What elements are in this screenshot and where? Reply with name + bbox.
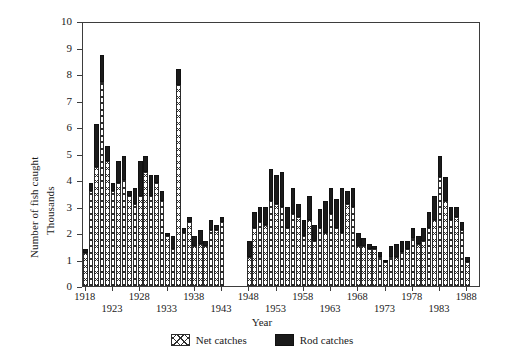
net-segment xyxy=(416,244,421,286)
bars-container xyxy=(83,23,479,286)
solid-black-swatch-icon xyxy=(275,334,294,346)
y-tick-5 xyxy=(77,155,82,156)
x-tick-1943 xyxy=(221,287,222,291)
rod-segment xyxy=(378,252,383,257)
bar-1940 xyxy=(203,241,208,286)
bar-1986 xyxy=(454,207,459,287)
x-tick-label-1953: 1953 xyxy=(265,303,286,314)
bar-1976 xyxy=(400,241,405,286)
net-segment xyxy=(127,196,132,286)
rod-segment xyxy=(263,207,268,226)
net-segment xyxy=(345,204,350,286)
net-segment xyxy=(361,246,366,286)
bar-1932 xyxy=(160,191,165,286)
bar-1942 xyxy=(214,225,219,286)
net-segment xyxy=(411,238,416,286)
x-tick-label-1988: 1988 xyxy=(456,291,477,302)
y-tick-label-3: 3 xyxy=(50,202,72,213)
rod-segment xyxy=(405,241,410,249)
net-segment xyxy=(187,222,192,286)
bar-1953 xyxy=(274,175,279,286)
y-tick-label-6: 6 xyxy=(50,122,72,133)
net-segment xyxy=(312,241,317,286)
net-segment xyxy=(100,82,105,286)
rod-segment xyxy=(94,124,99,166)
rod-segment xyxy=(340,188,345,233)
rod-segment xyxy=(438,156,443,177)
bar-1931 xyxy=(154,175,159,286)
cross-hatch-swatch-icon xyxy=(171,334,190,346)
net-segment xyxy=(296,217,301,286)
rod-segment xyxy=(154,175,159,183)
legend-label-rod: Rod catches xyxy=(300,334,353,346)
bar-1982 xyxy=(432,196,437,286)
bar-1949 xyxy=(252,212,257,286)
bar-1972 xyxy=(378,252,383,286)
rod-segment xyxy=(318,209,323,228)
rod-segment xyxy=(220,217,225,222)
rod-segment xyxy=(182,228,187,233)
bar-1973 xyxy=(383,260,388,287)
rod-segment xyxy=(83,249,88,253)
net-segment xyxy=(460,230,465,286)
rod-segment xyxy=(329,188,334,215)
bar-1970 xyxy=(367,244,372,286)
net-segment xyxy=(116,183,121,286)
rod-segment xyxy=(247,241,252,257)
rod-segment xyxy=(302,220,307,236)
net-segment xyxy=(83,253,88,286)
x-tick-label-1963: 1963 xyxy=(320,303,341,314)
net-segment xyxy=(122,180,127,286)
x-tick-1973 xyxy=(385,287,386,291)
rod-segment xyxy=(334,199,339,228)
plot-area xyxy=(82,22,480,287)
rod-segment xyxy=(198,230,203,243)
y-tick-3 xyxy=(77,208,82,209)
net-segment xyxy=(291,214,296,286)
net-segment xyxy=(165,236,170,286)
rod-segment xyxy=(133,188,138,204)
net-segment xyxy=(378,257,383,286)
rod-segment xyxy=(460,222,465,230)
x-tick-label-1978: 1978 xyxy=(401,291,422,302)
net-segment xyxy=(389,257,394,286)
rod-segment xyxy=(427,212,432,228)
bar-1927 xyxy=(133,188,138,286)
net-segment xyxy=(111,191,116,286)
y-tick-8 xyxy=(77,75,82,76)
rod-segment xyxy=(454,207,459,218)
rod-segment xyxy=(269,169,274,201)
rod-segment xyxy=(280,172,285,206)
net-segment xyxy=(351,207,356,287)
rod-segment xyxy=(389,246,394,257)
x-tick-label-1948: 1948 xyxy=(238,291,259,302)
net-segment xyxy=(192,246,197,286)
net-segment xyxy=(454,217,459,286)
rod-segment xyxy=(411,228,416,239)
bar-1980 xyxy=(421,228,426,286)
rod-segment xyxy=(345,191,350,204)
bar-1955 xyxy=(285,207,290,287)
x-tick-label-1968: 1968 xyxy=(347,291,368,302)
bar-1968 xyxy=(356,233,361,286)
rod-segment xyxy=(367,244,372,249)
bar-1988 xyxy=(465,257,470,286)
bar-1935 xyxy=(176,69,181,286)
rod-segment xyxy=(383,260,388,263)
y-tick-6 xyxy=(77,128,82,129)
y-tick-label-7: 7 xyxy=(50,96,72,107)
net-segment xyxy=(372,249,377,286)
bar-1974 xyxy=(389,246,394,286)
y-tick-label-10: 10 xyxy=(50,16,72,27)
bar-1930 xyxy=(149,175,154,286)
rod-segment xyxy=(449,207,454,220)
net-segment xyxy=(383,262,388,286)
bar-1969 xyxy=(361,238,366,286)
net-segment xyxy=(176,85,181,286)
rod-segment xyxy=(351,188,356,207)
bar-1957 xyxy=(296,204,301,286)
rod-segment xyxy=(143,156,148,172)
net-segment xyxy=(340,233,345,286)
net-segment xyxy=(209,230,214,286)
rod-segment xyxy=(187,217,192,222)
